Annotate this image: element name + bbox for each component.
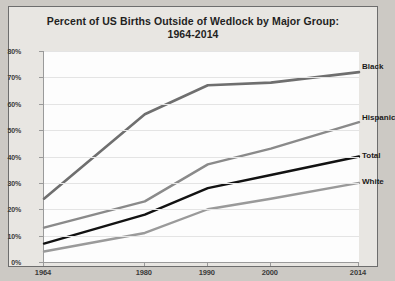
y-axis-tick-label: 50% <box>0 127 21 134</box>
y-axis-tick-label: 40% <box>0 153 21 160</box>
series-line-white <box>44 183 359 252</box>
series-label-total: Total <box>362 150 381 159</box>
chart-title: Percent of US Births Outside of Wedlock … <box>9 15 377 41</box>
y-axis-tick-mark <box>39 104 43 105</box>
x-axis-tick-label: 2000 <box>250 268 290 277</box>
x-axis-tick-label: 2014 <box>338 268 378 277</box>
y-axis-tick-label: 0% <box>0 259 21 266</box>
x-axis-tick-mark <box>270 262 271 266</box>
gridline <box>44 183 359 184</box>
y-axis-tick-label: 30% <box>0 179 21 186</box>
y-axis-tick-mark <box>39 51 43 52</box>
x-axis-tick-label: 1980 <box>124 268 164 277</box>
x-axis-tick-label: 1964 <box>23 268 63 277</box>
y-axis-tick-mark <box>39 209 43 210</box>
x-axis-tick-mark <box>358 262 359 266</box>
x-axis-tick-mark <box>144 262 145 266</box>
chart-title-line-1: Percent of US Births Outside of Wedlock … <box>9 15 377 28</box>
chart-title-line-2: 1964-2014 <box>9 28 377 41</box>
y-axis-tick-label: 70% <box>0 74 21 81</box>
gridline <box>44 236 359 237</box>
gridline <box>44 130 359 131</box>
y-axis-tick-mark <box>39 130 43 131</box>
gridline <box>44 104 359 105</box>
y-axis-tick-label: 80% <box>0 48 21 55</box>
x-axis-tick-mark <box>43 262 44 266</box>
gridline <box>44 157 359 158</box>
series-line-total <box>44 157 359 244</box>
plot-area <box>43 51 359 263</box>
y-axis-tick-mark <box>39 157 43 158</box>
gridline <box>44 77 359 78</box>
gridline <box>44 209 359 210</box>
x-axis-tick-mark <box>207 262 208 266</box>
y-axis-tick-mark <box>39 77 43 78</box>
y-axis-tick-label: 20% <box>0 206 21 213</box>
gridline <box>44 51 359 52</box>
chart-frame: Percent of US Births Outside of Wedlock … <box>8 6 378 267</box>
series-label-white: White <box>362 176 384 185</box>
series-label-hispanic: Hispanic <box>362 113 395 122</box>
y-axis-tick-mark <box>39 236 43 237</box>
y-axis-tick-label: 60% <box>0 100 21 107</box>
y-axis-tick-mark <box>39 183 43 184</box>
series-label-black: Black <box>362 62 383 71</box>
x-axis-tick-label: 1990 <box>187 268 227 277</box>
y-axis-tick-label: 10% <box>0 232 21 239</box>
